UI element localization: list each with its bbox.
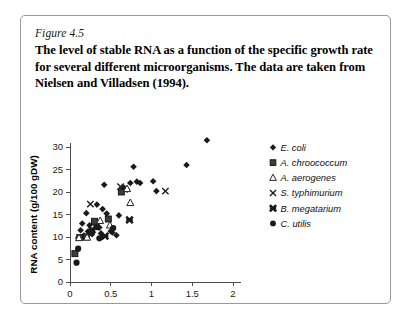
- y-tick-label: 5: [58, 254, 63, 265]
- y-tick-label: 0: [58, 276, 63, 287]
- legend-item-a-chroococcum: A. chroococcum: [270, 158, 347, 168]
- marker-square: [270, 160, 276, 166]
- data-points: [72, 137, 210, 266]
- x-tick-label: 1: [149, 288, 154, 299]
- y-axis-ticks: 051015202530: [52, 141, 70, 287]
- marker-square: [105, 216, 111, 222]
- marker-diamond: [79, 220, 86, 227]
- figure-frame: Figure 4.5 The level of stable RNA as a …: [20, 15, 391, 304]
- legend-label: S. typhimurium: [281, 188, 343, 198]
- legend-label: C. utilis: [281, 219, 312, 229]
- y-tick-label: 30: [52, 141, 63, 152]
- legend-item-a-aerogenes: A. aerogenes: [270, 173, 336, 183]
- marker-diamond: [130, 164, 137, 171]
- marker-cross: [87, 201, 93, 207]
- marker-diamond: [83, 210, 90, 217]
- figure-number: Figure 4.5: [35, 26, 375, 40]
- chart-container: 051015202530 00.511.52 RNA content (g/10…: [21, 102, 392, 302]
- figure-caption-block: Figure 4.5 The level of stable RNA as a …: [35, 26, 375, 92]
- marker-triangle: [127, 199, 134, 206]
- x-tick-label: 0.5: [104, 288, 117, 299]
- figure-caption-text: The level of stable RNA as a function of…: [35, 42, 375, 92]
- x-tick-label: 0: [67, 288, 72, 299]
- marker-diamond: [101, 182, 108, 189]
- scatter-plot: 051015202530 00.511.52 RNA content (g/10…: [21, 102, 392, 302]
- marker-diamond: [204, 137, 211, 144]
- marker-cross: [270, 190, 276, 196]
- marker-diamond: [127, 180, 134, 187]
- marker-circle: [94, 224, 100, 230]
- marker-triangle: [270, 174, 277, 180]
- y-tick-label: 25: [52, 164, 63, 175]
- marker-circle: [73, 260, 79, 266]
- y-tick-label: 15: [52, 209, 63, 220]
- marker-circle: [96, 235, 102, 241]
- marker-boldcross: [102, 233, 109, 240]
- marker-diamond: [150, 178, 157, 185]
- legend-item-c-utilis: C. utilis: [270, 219, 311, 229]
- marker-boldcross: [126, 217, 133, 224]
- marker-boldcross: [270, 205, 276, 211]
- x-tick-label: 1.5: [186, 288, 199, 299]
- y-axis-title: RNA content (g/100 gDW): [28, 155, 39, 273]
- legend-item-s-typhimurium: S. typhimurium: [270, 188, 343, 198]
- marker-circle: [270, 220, 276, 226]
- chart-legend: E. coliA. chroococcumA. aerogenesS. typh…: [270, 143, 348, 229]
- legend-item-b-megatarium: B. megatarium: [270, 204, 341, 214]
- marker-diamond: [183, 162, 190, 169]
- x-tick-label: 2: [230, 288, 235, 299]
- marker-diamond: [94, 201, 101, 208]
- marker-circle: [110, 225, 116, 231]
- legend-label: B. megatarium: [281, 204, 342, 214]
- marker-diamond: [77, 227, 84, 234]
- y-tick-label: 10: [52, 231, 63, 242]
- legend-item-e-coli: E. coli: [270, 143, 307, 153]
- marker-diamond: [270, 144, 276, 150]
- marker-diamond: [116, 212, 123, 219]
- marker-circle: [75, 246, 81, 252]
- x-axis-ticks: 00.511.52: [67, 282, 235, 299]
- marker-diamond: [99, 206, 106, 213]
- marker-cross: [162, 188, 168, 194]
- legend-label: A. chroococcum: [280, 158, 348, 168]
- y-tick-label: 20: [52, 186, 63, 197]
- legend-label: E. coli: [281, 143, 307, 153]
- marker-diamond: [153, 188, 160, 195]
- legend-label: A. aerogenes: [280, 173, 337, 183]
